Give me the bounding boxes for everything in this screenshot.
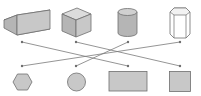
hex-prism-solid — [170, 8, 190, 38]
connection-lines — [22, 42, 180, 66]
bottom-dots — [21, 65, 181, 67]
rectangle-shape — [109, 72, 147, 92]
line-cuboid-rectangle — [22, 42, 128, 66]
dot-top-2[interactable] — [75, 41, 77, 43]
dot-bottom-3[interactable] — [127, 65, 129, 67]
dot-top-4[interactable] — [179, 41, 181, 43]
dot-top-1[interactable] — [21, 41, 23, 43]
top-dots — [21, 41, 181, 43]
line-hexprism-hexagon — [22, 42, 180, 66]
circle-shape — [68, 73, 86, 91]
square-shape — [170, 72, 191, 92]
line-cube-square — [76, 42, 180, 66]
matching-diagram — [0, 0, 201, 96]
hexagon-shape — [13, 74, 32, 90]
cuboid-solid — [4, 10, 50, 35]
cylinder-solid — [118, 9, 137, 37]
dot-bottom-1[interactable] — [21, 65, 23, 67]
dot-top-3[interactable] — [127, 41, 129, 43]
dot-bottom-2[interactable] — [75, 65, 77, 67]
cube-solid — [62, 8, 91, 37]
dot-bottom-4[interactable] — [179, 65, 181, 67]
